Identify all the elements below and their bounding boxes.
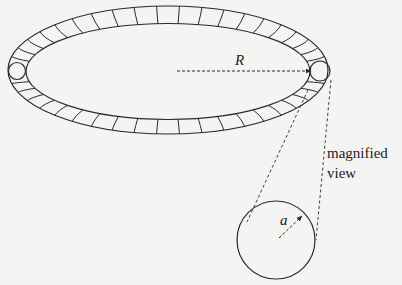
torus-segment-divider [178,119,179,133]
torus-segment-divider [40,32,54,43]
torus-segment-divider [253,110,264,121]
torus-segment-divider [301,88,318,92]
torus-segment-divider [301,48,318,55]
torus-segment-divider [18,88,35,92]
minor-radius-label: a [280,212,288,228]
torus-segment-divider [55,105,68,115]
torus-segment-divider [112,10,118,27]
torus-segment-divider [268,105,281,115]
torus-segment-divider [293,95,309,101]
torus-segment-dividers [12,6,325,134]
torus-ring [8,6,330,134]
magnified-view-label-line2: view [327,165,356,181]
torus-segment-divider [40,100,54,108]
torus-segment-divider [198,118,202,132]
torus-segment-divider [12,82,30,84]
torus-segment-divider [293,39,309,48]
torus-segment-divider [218,117,224,131]
torus-segment-divider [236,114,245,127]
torus-segment-divider [91,14,100,30]
torus-right-cross-section [310,61,330,81]
torus-segment-divider [218,10,224,27]
torus-segment-divider [157,6,158,23]
magnified-cross-section [237,201,315,279]
torus-segment-divider [28,95,44,101]
magnified-view-label-line1: magnified [327,145,388,161]
torus-segment-divider [282,32,296,43]
torus-segment-divider [18,48,35,55]
torus-segment-divider [282,100,296,108]
torus-segment-divider [307,82,325,84]
torus-segment-divider [72,110,83,121]
torus-segment-divider [178,6,179,23]
torus-left-cross-section [9,63,26,80]
torus-segment-divider [253,19,264,33]
torus-segment-divider [28,39,44,48]
torus-segment-divider [72,19,83,33]
torus-segment-divider [268,25,281,38]
torus-segment-divider [12,56,30,61]
torus-segment-divider [55,25,68,38]
torus-segment-divider [236,14,245,30]
torus-segment-divider [134,8,138,25]
torus-outer-edge [8,6,328,134]
major-radius-label: R [234,52,244,68]
projection-line-left [247,90,308,222]
torus-diagram: R a magnified view [0,0,402,285]
torus-segment-divider [112,117,118,131]
torus-segment-divider [134,118,138,132]
torus-segment-divider [157,119,158,133]
torus-segment-divider [198,8,202,25]
torus-segment-divider [91,114,100,127]
